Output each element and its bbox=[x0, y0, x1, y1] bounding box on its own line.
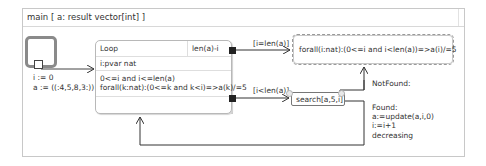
loop-divider-3 bbox=[96, 96, 231, 97]
loop-state[interactable]: Loop len(a)-i i:pvar nat 0<=i and i<=len… bbox=[95, 40, 232, 114]
init-assignment-i: i := 0 bbox=[33, 73, 53, 82]
loop-invariant-1: 0<=i and i<=len(a) bbox=[100, 74, 175, 83]
initial-state-port[interactable] bbox=[34, 60, 43, 69]
loop-variant: len(a)-i bbox=[192, 44, 219, 53]
loop-title: Loop bbox=[100, 44, 118, 53]
found-decreasing: decreasing bbox=[372, 131, 413, 140]
exit-connector[interactable] bbox=[229, 47, 236, 54]
loop-header-separator bbox=[187, 41, 188, 56]
loop-divider-2 bbox=[96, 70, 231, 71]
found-increment-i: i:=i+1 bbox=[372, 121, 396, 130]
found-update-a: a:=update(a,i,0) bbox=[372, 112, 434, 121]
loop-divider-1 bbox=[96, 56, 231, 57]
found-label: Found: bbox=[372, 103, 397, 112]
continue-connector[interactable] bbox=[229, 95, 236, 102]
init-assignment-a: a := ((:4,5,8,3:)) bbox=[33, 83, 94, 92]
loop-variables: i:pvar nat bbox=[100, 59, 136, 68]
search-input-port[interactable] bbox=[286, 90, 293, 97]
loop-invariant-2: forall(k:nat):(0<=k and k<i)=>a(k)/=5 bbox=[100, 83, 247, 92]
postcondition-state[interactable]: forall(i:nat):(0<=i and i<len(a))=>a(i)/… bbox=[292, 34, 454, 65]
postcondition-text: forall(i:nat):(0<=i and i<len(a))=>a(i)/… bbox=[299, 45, 456, 54]
search-call-box[interactable]: search[a,5,i] bbox=[291, 92, 345, 106]
search-output-port[interactable] bbox=[338, 90, 345, 97]
continue-guard-label: [i<len(a)] bbox=[253, 86, 289, 95]
exit-guard-label: [i=len(a)] bbox=[253, 39, 289, 48]
notfound-label: NotFound: bbox=[372, 79, 411, 88]
search-call-text: search[a,5,i] bbox=[296, 95, 343, 104]
